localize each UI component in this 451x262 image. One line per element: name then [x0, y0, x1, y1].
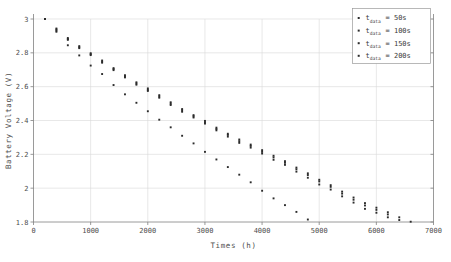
data-point: [364, 202, 366, 204]
legend-marker-1: [358, 30, 360, 32]
data-point: [387, 216, 389, 218]
chart-figure: 1.822.22.42.62.8301000200030004000500060…: [0, 0, 451, 262]
data-point: [78, 54, 80, 56]
y-tick-label: 2.6: [16, 83, 29, 91]
data-point: [238, 140, 240, 142]
data-point: [284, 204, 286, 206]
data-point: [353, 199, 355, 201]
data-point: [307, 177, 309, 179]
data-point: [124, 74, 126, 76]
data-point: [204, 151, 206, 153]
data-point: [101, 73, 103, 75]
data-point: [147, 87, 149, 89]
data-point: [238, 142, 240, 144]
data-point: [193, 114, 195, 116]
data-point: [90, 52, 92, 54]
data-point: [307, 219, 309, 221]
x-tick-label: 5000: [311, 227, 328, 235]
scatter-plot: 1.822.22.42.62.8301000200030004000500060…: [0, 0, 451, 262]
data-point: [135, 102, 137, 104]
x-tick-label: 0: [31, 227, 35, 235]
data-point: [284, 164, 286, 166]
data-point: [398, 219, 400, 221]
data-point: [158, 94, 160, 96]
data-point: [55, 28, 57, 30]
data-point: [330, 184, 332, 186]
data-point: [273, 197, 275, 199]
data-point: [250, 147, 252, 149]
data-point: [295, 171, 297, 173]
data-point: [273, 159, 275, 161]
data-point: [284, 162, 286, 164]
y-tick-label: 2.8: [16, 49, 29, 57]
data-point: [273, 156, 275, 158]
data-point: [330, 189, 332, 191]
data-point: [193, 142, 195, 144]
data-point: [353, 197, 355, 199]
data-point: [170, 101, 172, 103]
data-point: [284, 160, 286, 162]
x-tick-label: 4000: [254, 227, 271, 235]
series-points-3: [44, 18, 389, 213]
x-tick-label: 6000: [368, 227, 385, 235]
legend-label-subscript-2: data: [370, 44, 381, 49]
data-point: [295, 167, 297, 169]
legend-marker-0: [358, 17, 360, 19]
data-point: [67, 44, 69, 46]
y-tick-label: 1.8: [16, 219, 29, 227]
data-point: [215, 127, 217, 129]
data-point: [387, 213, 389, 215]
y-tick-label: 2.4: [16, 117, 29, 125]
data-point: [364, 208, 366, 210]
data-point: [227, 166, 229, 168]
data-point: [307, 172, 309, 174]
legend-marker-3: [358, 55, 360, 57]
data-point: [261, 151, 263, 153]
x-tick-label: 1000: [82, 227, 99, 235]
data-point: [238, 139, 240, 141]
series-points-0: [44, 18, 309, 220]
data-point: [410, 221, 412, 223]
data-point: [170, 126, 172, 128]
data-point: [375, 209, 377, 211]
data-point: [261, 190, 263, 192]
data-point: [318, 184, 320, 186]
data-point: [113, 67, 115, 69]
data-point: [44, 18, 46, 20]
data-point: [318, 179, 320, 181]
data-point: [78, 45, 80, 47]
data-point: [364, 205, 366, 207]
data-point: [295, 168, 297, 170]
y-tick-label: 2: [24, 185, 28, 193]
data-point: [238, 174, 240, 176]
data-point: [353, 202, 355, 204]
data-point: [261, 149, 263, 151]
data-point: [204, 120, 206, 122]
data-point: [261, 153, 263, 155]
data-point: [67, 37, 69, 39]
y-axis-title: Battery Voltage (V): [4, 72, 13, 169]
x-tick-label: 7000: [425, 227, 442, 235]
data-point: [341, 193, 343, 195]
legend-label-subscript-1: data: [370, 31, 381, 36]
data-point: [101, 60, 103, 62]
data-point: [295, 211, 297, 213]
data-point: [227, 136, 229, 138]
data-point: [124, 93, 126, 95]
data-point: [147, 110, 149, 112]
legend-label-subscript-3: data: [370, 56, 381, 61]
legend-label-value-3: = 200s: [386, 52, 411, 60]
data-point: [273, 155, 275, 157]
legend-marker-2: [358, 42, 360, 44]
x-tick-label: 3000: [196, 227, 213, 235]
legend-label-value-2: = 150s: [386, 40, 411, 48]
data-point: [181, 135, 183, 137]
x-tick-label: 2000: [139, 227, 156, 235]
data-point: [318, 181, 320, 183]
data-point: [158, 119, 160, 121]
legend-label-value-0: = 50s: [386, 14, 407, 22]
y-tick-label: 2.2: [16, 151, 29, 159]
data-point: [181, 108, 183, 110]
data-point: [250, 181, 252, 183]
data-point: [90, 65, 92, 67]
